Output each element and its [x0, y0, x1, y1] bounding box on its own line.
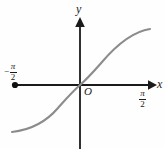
left-endpoint-label: − π 2 [4, 61, 17, 82]
minus-sign: − [4, 67, 9, 76]
y-axis-label: y [76, 3, 81, 15]
right-endpoint-label: π 2 [139, 89, 146, 109]
origin-label: O [84, 86, 92, 97]
function-curve [12, 29, 150, 132]
fraction-numerator-right: π [139, 89, 146, 98]
fraction-numerator: π [10, 62, 17, 71]
fraction-denominator-right: 2 [139, 100, 146, 109]
y-axis-arrowhead [75, 17, 85, 27]
fraction-denominator: 2 [10, 73, 17, 82]
negative-pi-over-two: − π 2 [4, 62, 17, 82]
fraction-pi-over-two: π 2 [10, 62, 17, 82]
fraction-pi-over-two-right: π 2 [139, 89, 146, 109]
left-endpoint-dot [12, 82, 18, 88]
graph-canvas [0, 0, 165, 149]
x-axis-arrowhead [148, 80, 157, 90]
math-graph-figure: y x O − π 2 π 2 [0, 0, 165, 149]
x-axis-label: x [157, 78, 162, 90]
